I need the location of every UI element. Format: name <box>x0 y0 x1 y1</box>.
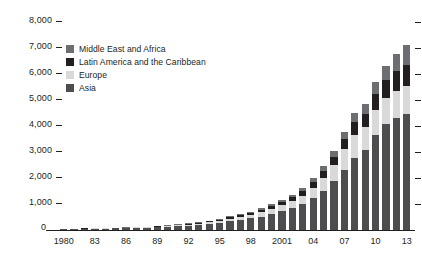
bar-segment <box>393 71 400 91</box>
bar-segment <box>341 149 348 169</box>
bar <box>122 227 129 229</box>
legend-swatch-icon <box>66 45 74 53</box>
bar <box>81 228 88 229</box>
legend-swatch-icon <box>66 71 74 79</box>
bar-segment <box>330 157 337 166</box>
bar <box>216 219 223 230</box>
x-axis-tick-label: 07 <box>327 236 361 246</box>
x-axis-tick-label: 89 <box>140 236 174 246</box>
bar <box>258 208 265 229</box>
legend-item-label: Europe <box>79 70 107 80</box>
x-axis-tick-label: 83 <box>78 236 112 246</box>
bar <box>133 227 140 230</box>
bar-segment <box>330 165 337 181</box>
bar-segment <box>195 225 202 230</box>
bar-segment <box>185 226 192 230</box>
bar-segment <box>393 118 400 230</box>
bar <box>226 216 233 229</box>
bar-segment <box>122 228 129 229</box>
bar-segment <box>382 66 389 80</box>
bar <box>70 228 77 229</box>
bar-segment <box>226 221 233 229</box>
bar-segment <box>351 113 358 122</box>
bar <box>320 166 327 230</box>
x-axis-baseline <box>46 230 416 231</box>
bar-segment <box>206 224 213 230</box>
bar <box>382 66 389 230</box>
bar-segment <box>299 196 306 204</box>
bar-segment <box>143 228 150 230</box>
bar-segment <box>247 218 254 229</box>
bar-segment <box>133 228 140 230</box>
x-axis-tick-label: 1980 <box>47 236 81 246</box>
bar-segment <box>351 122 358 135</box>
legend-item-label: Latin America and the Caribbean <box>79 57 206 67</box>
bar <box>403 45 410 230</box>
bar-segment <box>330 181 337 229</box>
bar <box>372 82 379 229</box>
bar-segment <box>382 80 389 98</box>
bar-segment <box>320 178 327 191</box>
bar-segment <box>299 204 306 229</box>
bar-segment <box>310 198 317 229</box>
bar-segment <box>154 227 161 229</box>
bar <box>143 226 150 229</box>
bar <box>362 104 369 229</box>
bar <box>164 225 171 229</box>
bar-segment <box>372 94 379 110</box>
bar-segment <box>310 188 317 198</box>
bar-segment <box>362 150 369 229</box>
legend-item: Middle East and Africa <box>66 42 206 55</box>
bar <box>185 223 192 229</box>
bar-segment <box>382 98 389 124</box>
stacked-bar-chart: 1,0002,0003,0004,0005,0006,0007,0008,000… <box>0 0 422 269</box>
bar-segment <box>362 104 369 114</box>
plot-area <box>0 0 422 230</box>
bar <box>206 221 213 230</box>
legend-swatch-icon <box>66 84 74 92</box>
x-axis-tick-label: 10 <box>359 236 393 246</box>
legend-item: Latin America and the Caribbean <box>66 55 206 68</box>
bar-segment <box>320 171 327 178</box>
bar <box>247 212 254 230</box>
bar-segment <box>278 211 285 229</box>
bar-segment <box>81 229 88 230</box>
x-axis-tick-label: 13 <box>390 236 422 246</box>
bar <box>268 204 275 229</box>
bar <box>289 195 296 230</box>
bar-segment <box>341 170 348 230</box>
bar-segment <box>372 110 379 135</box>
bar-segment <box>362 127 369 150</box>
bar <box>91 228 98 229</box>
bar-segment <box>403 86 410 114</box>
bar-segment <box>237 220 244 230</box>
bar-segment <box>174 226 181 229</box>
bar <box>310 178 317 229</box>
bar-segment <box>341 139 348 150</box>
bar <box>330 151 337 230</box>
bar <box>237 214 244 230</box>
bar-segment <box>403 65 410 86</box>
x-axis-tick-label: 86 <box>109 236 143 246</box>
bar-segment <box>341 132 348 139</box>
bar-segment <box>216 223 223 230</box>
bar-segment <box>164 227 171 230</box>
bar <box>299 188 306 230</box>
chart-legend: Middle East and AfricaLatin America and … <box>66 42 206 95</box>
bar-segment <box>320 191 327 230</box>
bar-segment <box>112 228 119 229</box>
bar-segment <box>393 54 400 71</box>
legend-item: Asia <box>66 82 206 95</box>
bar-segment <box>403 45 410 65</box>
x-axis-tick-label: 98 <box>234 236 268 246</box>
legend-item-label: Asia <box>79 83 96 93</box>
bar-segment <box>372 135 379 230</box>
bar-segment <box>289 201 296 208</box>
bar <box>351 113 358 229</box>
legend-item: Europe <box>66 68 206 81</box>
bar <box>112 228 119 230</box>
bar-segment <box>70 229 77 230</box>
bar-segment <box>382 124 389 229</box>
bar <box>174 224 181 229</box>
bar <box>393 54 400 229</box>
